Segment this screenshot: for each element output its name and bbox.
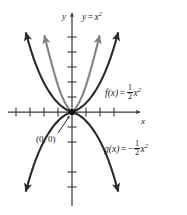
gx-fraction-one-half: 12	[134, 140, 140, 157]
fx-exponent: 2	[138, 86, 141, 93]
equation-label-y-equals-x-squared: y=x2	[82, 11, 102, 23]
gx-minus-sign: −	[128, 144, 133, 154]
parabola-figure: y x y=x2 f(x)=12x2 g(x)=−12x2 (0, 0)	[0, 0, 187, 215]
y-eq-equals: =	[88, 12, 93, 22]
gx-exponent: 2	[145, 142, 148, 149]
equation-label-g-of-x: g(x)=−12x2	[104, 140, 148, 157]
origin-dot	[69, 109, 75, 115]
fx-lhs: f(x)	[105, 88, 118, 98]
gx-lhs: g(x)	[104, 144, 119, 154]
equation-label-f-of-x: f(x)=12x2	[105, 84, 141, 101]
y-eq-exponent: 2	[99, 10, 102, 17]
y-axis-label: y	[62, 12, 66, 21]
fx-equals: =	[120, 88, 125, 98]
x-axis-label: x	[141, 117, 145, 126]
gx-denominator: 2	[134, 149, 140, 157]
fx-denominator: 2	[127, 93, 133, 101]
graph-canvas	[0, 0, 187, 215]
fx-fraction-one-half: 12	[127, 84, 133, 101]
origin-point-label: (0, 0)	[36, 135, 56, 144]
gx-equals: =	[121, 144, 126, 154]
y-eq-lhs: y	[82, 12, 86, 22]
